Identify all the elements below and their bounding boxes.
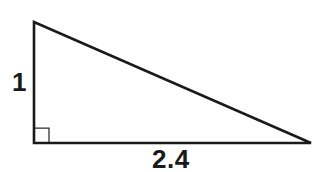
horizontal-base-length-label: 2.4 — [152, 146, 190, 172]
vertical-leg-length-label: 1 — [12, 69, 26, 95]
right-triangle-figure: 1 2.4 — [0, 0, 318, 172]
